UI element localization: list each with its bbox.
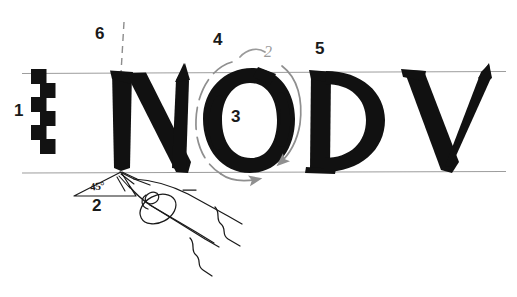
annotation-number-6: 6 xyxy=(95,25,104,42)
pen-angle-value: 45° xyxy=(89,179,105,193)
nib-shank-joint-lower xyxy=(190,238,212,276)
nib-body-bottom xyxy=(150,205,219,247)
nib-slit-eye xyxy=(143,190,160,206)
annotation-number-3: 3 xyxy=(231,108,240,125)
calligraphy-diagram-canvas: 1 2 3 4 5 6 2 45° xyxy=(0,0,517,297)
annotation-number-2: 2 xyxy=(92,197,101,214)
pen-and-angle-layer xyxy=(0,0,517,297)
annotation-number-1: 1 xyxy=(14,102,23,119)
broad-edge-pen-nib xyxy=(120,172,242,276)
annotation-number-top-arc: 2 xyxy=(264,44,272,60)
annotation-number-5: 5 xyxy=(315,40,324,57)
nib-upper-edge xyxy=(134,179,242,224)
angle-hatch xyxy=(117,177,125,191)
annotation-number-4: 4 xyxy=(213,31,222,48)
nib-shank-joint-upper xyxy=(215,207,240,246)
